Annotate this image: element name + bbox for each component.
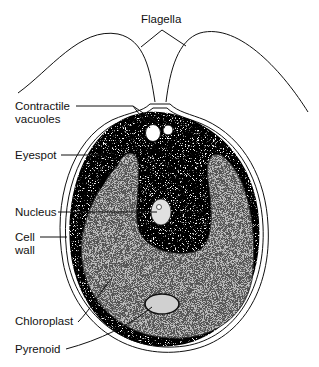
label-contractile-vacuoles-1: Contractile	[15, 100, 70, 113]
label-flagella: Flagella	[141, 13, 181, 26]
label-cell-wall-2: wall	[15, 244, 35, 257]
label-nucleus: Nucleus	[15, 206, 57, 219]
label-eyespot: Eyespot	[15, 149, 57, 162]
contractile-vacuole-1	[146, 125, 161, 142]
label-cell-wall-1: Cell	[15, 231, 35, 244]
contractile-vacuole-2	[163, 125, 173, 135]
nucleolus	[157, 205, 162, 210]
pyrenoid	[145, 294, 179, 314]
chlamydomonas-diagram	[0, 0, 319, 367]
label-pyrenoid: Pyrenoid	[15, 343, 60, 356]
label-contractile-vacuoles-2: vacuoles	[15, 113, 60, 126]
label-chloroplast: Chloroplast	[15, 315, 73, 328]
